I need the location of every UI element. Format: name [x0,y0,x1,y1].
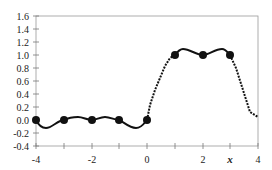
data-point [143,116,151,124]
y-tick-label: 1.6 [17,11,30,22]
y-tick-label: 0.2 [17,102,30,113]
data-markers [32,51,234,124]
x-tick-label: -4 [32,154,40,165]
data-point [171,51,179,59]
x-axis-label: x [226,153,233,165]
x-tick-label: 2 [201,154,206,165]
data-point [60,116,68,124]
y-tick-label: -0.4 [13,141,29,152]
y-tick-label: 0.0 [17,115,30,126]
true-function-segment [147,55,175,120]
chart-canvas: 1.6 1.4 1.2 1.0 0.8 0.6 0.4 0.2 0.0 -0.2… [0,0,272,170]
y-tick-label: -0.2 [13,128,29,139]
plot-frame [36,16,258,146]
y-tick-label: 0.6 [17,76,30,87]
x-tick-labels: -4 -2 0 2 4 [32,154,261,165]
y-tick-label: 1.2 [17,37,30,48]
x-tick-label: -2 [88,154,96,165]
x-tick-label: 4 [256,154,261,165]
y-tick-labels: 1.6 1.4 1.2 1.0 0.8 0.6 0.4 0.2 0.0 -0.2… [13,11,29,152]
y-tick-label: 0.4 [17,89,30,100]
x-tick-label: 0 [145,154,150,165]
true-function-segment [230,55,258,117]
y-tick-label: 0.8 [17,63,30,74]
data-point [115,116,123,124]
data-point [32,116,40,124]
interpolating-curve [36,49,230,128]
data-point [199,51,207,59]
data-point [88,116,96,124]
data-point [226,51,234,59]
y-tick-label: 1.0 [17,50,30,61]
y-tick-label: 1.4 [17,24,30,35]
